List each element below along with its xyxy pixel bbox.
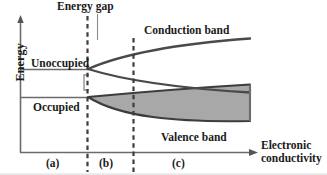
- region-label-c: (c): [172, 157, 185, 169]
- x-axis-label-line1: Electronic: [261, 139, 322, 152]
- y-axis-arrowhead: [17, 15, 23, 23]
- valence-band-label: Valence band: [161, 131, 227, 143]
- conduction-band-upper-edge: [88, 39, 250, 70]
- conduction-band-label: Conduction band: [144, 24, 229, 36]
- occupied-label: Occupied: [33, 101, 80, 113]
- x-axis-label-line2: conductivity: [261, 152, 322, 165]
- x-axis-arrowhead: [249, 149, 258, 156]
- region-label-a: (a): [46, 157, 59, 169]
- x-axis-label: Electronic conductivity: [261, 139, 322, 165]
- region-label-b: (b): [99, 157, 113, 169]
- figure-canvas: Energy Energy gap Unoccupied Occupied Co…: [0, 0, 327, 175]
- y-axis-label: Energy: [14, 34, 27, 90]
- scan-edge-artifact: [0, 173, 327, 175]
- unoccupied-label: Unoccupied: [31, 57, 89, 69]
- energy-gap-label: Energy gap: [57, 0, 114, 12]
